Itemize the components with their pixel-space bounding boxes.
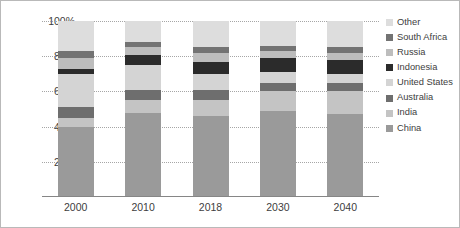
legend-item-australia[interactable]: Australia [386, 90, 458, 105]
plot-area [42, 21, 379, 197]
legend-item-label: Russia [397, 48, 425, 57]
legend-item-label: South Africa [397, 33, 447, 42]
legend-item-south-africa[interactable]: South Africa [386, 30, 458, 45]
bar-segment-india[interactable] [260, 91, 296, 110]
bar-segment-australia[interactable] [193, 90, 229, 101]
legend-swatch-icon [386, 19, 393, 26]
bar-segment-russia[interactable] [125, 47, 161, 54]
legend-item-label: Indonesia [397, 63, 437, 72]
bar-group [327, 21, 363, 197]
x-axis-tick-label: 2018 [181, 201, 241, 213]
bar-segment-united-states[interactable] [193, 74, 229, 90]
bar-segment-india[interactable] [58, 118, 94, 127]
legend-swatch-icon [386, 95, 393, 102]
bar-segment-indonesia[interactable] [327, 60, 363, 74]
stacked-bar[interactable] [193, 21, 229, 197]
bar-segment-united-states[interactable] [260, 72, 296, 83]
legend-swatch-icon [386, 125, 393, 132]
x-axis-tick-label: 2040 [315, 201, 375, 213]
stacked-bar[interactable] [260, 21, 296, 197]
legend-item-label: India [397, 108, 417, 117]
stacked-bar[interactable] [58, 21, 94, 197]
legend-item-russia[interactable]: Russia [386, 45, 458, 60]
legend-swatch-icon [386, 79, 393, 86]
stacked-bar[interactable] [327, 21, 363, 197]
bar-segment-russia[interactable] [58, 58, 94, 69]
bar-segment-russia[interactable] [260, 51, 296, 58]
bar-segment-india[interactable] [125, 100, 161, 112]
x-axis-tick-label: 2030 [248, 201, 308, 213]
chart-legend: OtherSouth AfricaRussiaIndonesiaUnited S… [386, 15, 458, 136]
bar-segment-other[interactable] [193, 21, 229, 47]
bar-segment-indonesia[interactable] [125, 55, 161, 66]
bar-segment-other[interactable] [260, 21, 296, 46]
bar-segment-united-states[interactable] [58, 74, 94, 107]
bar-segment-australia[interactable] [327, 83, 363, 92]
bar-segment-india[interactable] [327, 91, 363, 114]
stacked-bar-chart: 20%40%60%80%100% 20002010201820302040 Ot… [0, 0, 460, 228]
legend-swatch-icon [386, 64, 393, 71]
bar-segment-australia[interactable] [125, 90, 161, 101]
bar-segment-south-africa[interactable] [58, 51, 94, 58]
bar-segment-other[interactable] [58, 21, 94, 51]
legend-item-india[interactable]: India [386, 106, 458, 121]
bar-segment-china[interactable] [260, 111, 296, 197]
bar-segment-other[interactable] [125, 21, 161, 42]
bar-segment-china[interactable] [58, 127, 94, 197]
legend-item-label: Australia [397, 93, 433, 102]
legend-swatch-icon [386, 34, 393, 41]
legend-swatch-icon [386, 49, 393, 56]
bar-segment-india[interactable] [193, 100, 229, 116]
bar-group [193, 21, 229, 197]
bar-segment-indonesia[interactable] [193, 62, 229, 74]
stacked-bar[interactable] [125, 21, 161, 197]
bar-segment-china[interactable] [193, 116, 229, 197]
x-axis-line [42, 196, 379, 197]
bar-segment-other[interactable] [327, 21, 363, 47]
legend-item-other[interactable]: Other [386, 15, 458, 30]
x-axis-tick-label: 2010 [113, 201, 173, 213]
bar-segment-australia[interactable] [58, 107, 94, 118]
bar-group [125, 21, 161, 197]
bar-group [58, 21, 94, 197]
bar-segment-china[interactable] [327, 114, 363, 197]
legend-swatch-icon [386, 110, 393, 117]
legend-item-united-states[interactable]: United States [386, 75, 458, 90]
x-axis-tick-label: 2000 [46, 201, 106, 213]
bar-segment-china[interactable] [125, 113, 161, 197]
legend-item-label: United States [397, 78, 453, 87]
bar-segment-russia[interactable] [193, 53, 229, 62]
legend-item-label: Other [397, 18, 420, 27]
bar-segment-united-states[interactable] [327, 74, 363, 83]
legend-item-china[interactable]: China [386, 121, 458, 136]
bar-segment-indonesia[interactable] [260, 58, 296, 72]
bar-segment-united-states[interactable] [125, 65, 161, 90]
legend-item-indonesia[interactable]: Indonesia [386, 60, 458, 75]
legend-item-label: China [397, 124, 421, 133]
bar-segment-russia[interactable] [327, 53, 363, 60]
bar-group [260, 21, 296, 197]
bar-segment-australia[interactable] [260, 83, 296, 92]
